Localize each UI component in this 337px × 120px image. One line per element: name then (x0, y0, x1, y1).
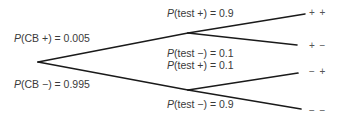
label-p-cb-positive: P(CB +) = 0.005 (14, 32, 90, 44)
outcome-pos-neg: + − (309, 40, 326, 52)
label-p-test-negative-lower: P(test −) = 0.9 (167, 98, 234, 110)
label-italic-p: P (167, 7, 174, 19)
branch-pos-test-negative (188, 33, 297, 45)
label-italic-p: P (167, 47, 174, 59)
label-italic-p: P (14, 78, 21, 90)
outcome-pos-pos: + + (309, 7, 326, 19)
outcome-neg-neg: − − (309, 105, 326, 117)
label-text: (test −) = 0.1 (174, 47, 234, 59)
label-text: (test +) = 0.1 (174, 59, 234, 71)
label-p-cb-negative: P(CB −) = 0.995 (14, 78, 90, 90)
label-text: (CB −) = 0.995 (21, 78, 90, 90)
label-italic-p: P (167, 59, 174, 71)
label-italic-p: P (167, 98, 174, 110)
branch-neg-test-positive (188, 73, 298, 90)
outcome-neg-pos: − + (309, 66, 326, 78)
label-p-test-positive-lower: P(test +) = 0.1 (167, 59, 234, 71)
label-text: (test +) = 0.9 (174, 7, 234, 19)
label-p-test-positive-upper: P(test +) = 0.9 (167, 7, 234, 19)
label-italic-p: P (14, 32, 21, 44)
label-p-test-negative-upper: P(test −) = 0.1 (167, 47, 234, 59)
label-text: (test −) = 0.9 (174, 98, 234, 110)
label-text: (CB +) = 0.005 (21, 32, 90, 44)
